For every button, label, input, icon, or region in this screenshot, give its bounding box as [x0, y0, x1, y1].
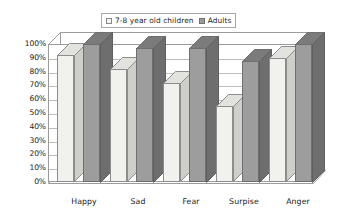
- bar-fear-adults: [189, 44, 206, 182]
- bar-fear-children: [163, 44, 180, 182]
- bar-sad-children: [110, 44, 127, 182]
- y-axis: 100% 90% 80% 70% 60% 50% 40% 30% 20% 10%…: [0, 0, 46, 218]
- y-tick-100: 100%: [2, 40, 46, 48]
- y-tick-50: 50%: [2, 109, 46, 117]
- bar-happy-children: [57, 44, 74, 182]
- y-tick-0: 0%: [2, 178, 46, 186]
- y-tick-60: 60%: [2, 95, 46, 103]
- y-tick-30: 30%: [2, 137, 46, 145]
- x-label-anger: Anger: [270, 197, 326, 206]
- x-label-surpise: Surpise: [215, 197, 273, 206]
- y-tick-40: 40%: [2, 123, 46, 131]
- bar-sad-adults: [136, 44, 153, 182]
- chart-container: 7-8 year old children Adults: [0, 0, 360, 218]
- y-tick-90: 90%: [2, 54, 46, 62]
- y-tick-10: 10%: [2, 164, 46, 172]
- bar-anger-adults: [295, 44, 312, 182]
- x-label-fear: Fear: [163, 197, 219, 206]
- bar-surpise-adults: [242, 44, 259, 182]
- bar-happy-adults: [83, 44, 100, 182]
- y-tick-80: 80%: [2, 68, 46, 76]
- x-label-sad: Sad: [110, 197, 166, 206]
- y-tick-70: 70%: [2, 81, 46, 89]
- plot-area: 100% 90% 80% 70% 60% 50% 40% 30% 20% 10%…: [0, 0, 360, 218]
- y-tick-20: 20%: [2, 150, 46, 158]
- bar-anger-children: [269, 44, 286, 182]
- bar-surpise-children: [216, 44, 233, 182]
- x-label-happy: Happy: [56, 197, 112, 206]
